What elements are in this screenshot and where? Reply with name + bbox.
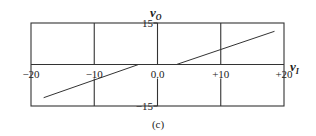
transfer-characteristic-chart: −20−100.0+10+20 15 −15 vO vI (c) <box>0 0 316 136</box>
x-tick-label: 0.0 <box>151 68 165 80</box>
y-axis-label: vO <box>150 5 162 22</box>
x-axis-label-sub: I <box>295 67 300 76</box>
figure-caption: (c) <box>152 118 165 131</box>
x-tick-label: −10 <box>86 68 104 80</box>
x-tick-labels: −20−100.0+10+20 <box>22 68 293 80</box>
series-line <box>176 31 274 64</box>
y-tick-neg15: −15 <box>136 100 154 112</box>
x-tick-label: +10 <box>212 68 230 80</box>
x-tick-label: −20 <box>22 68 40 80</box>
x-axis-label: vI <box>290 59 300 76</box>
plot-frame <box>31 23 284 106</box>
y-axis-label-sub: O <box>156 13 162 22</box>
